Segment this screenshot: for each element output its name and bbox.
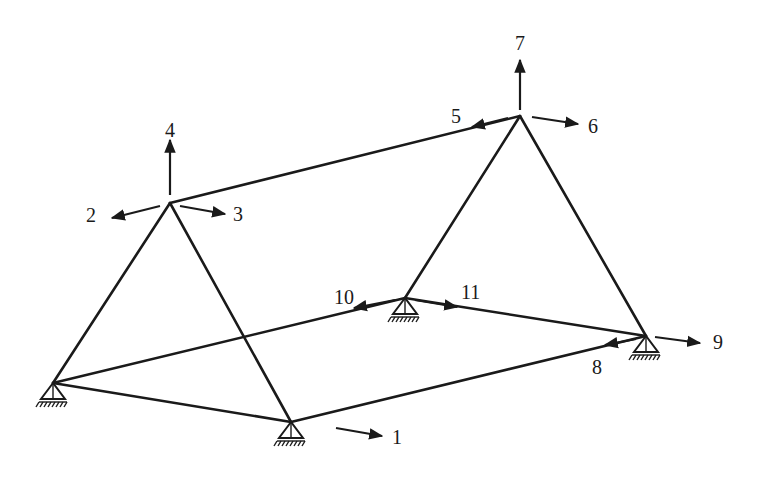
dof-label-6: 6 bbox=[588, 115, 598, 137]
dof-label-7: 7 bbox=[515, 32, 525, 54]
member-left-front-leg bbox=[53, 203, 170, 383]
member-right-back-leg bbox=[520, 116, 646, 336]
support-icon bbox=[36, 383, 67, 407]
dof-label-5: 5 bbox=[451, 105, 461, 127]
dof-label-10: 10 bbox=[334, 286, 354, 308]
arrow-right-icon bbox=[532, 117, 578, 124]
supports bbox=[36, 298, 660, 446]
arrow-right-icon bbox=[180, 206, 225, 214]
dof-arrows bbox=[112, 60, 700, 436]
dof-label-8: 8 bbox=[592, 356, 602, 378]
member-left-back-leg bbox=[170, 203, 291, 422]
arrow-left-icon bbox=[112, 206, 160, 218]
dof-label-3: 3 bbox=[233, 203, 243, 225]
dof-label-2: 2 bbox=[86, 204, 96, 226]
arrow-left-icon bbox=[354, 300, 395, 308]
member-base-front bbox=[53, 383, 291, 422]
arrow-left-icon bbox=[472, 118, 508, 127]
dof-labels: 1 2 3 4 5 6 7 8 9 10 11 bbox=[86, 32, 723, 448]
frame-diagram: 1 2 3 4 5 6 7 8 9 10 11 bbox=[0, 0, 757, 487]
dof-label-9: 9 bbox=[713, 331, 723, 353]
member-right-front-leg bbox=[405, 116, 520, 298]
member-top-beam bbox=[170, 116, 520, 203]
arrow-right-icon bbox=[336, 428, 382, 436]
member-base-right bbox=[291, 336, 646, 422]
dof-label-4: 4 bbox=[165, 119, 175, 141]
frame-members bbox=[53, 116, 646, 422]
dof-label-11: 11 bbox=[461, 281, 480, 303]
dof-label-1: 1 bbox=[392, 426, 402, 448]
arrow-right-icon bbox=[655, 337, 700, 343]
arrow-left-icon bbox=[605, 339, 636, 345]
support-icon bbox=[274, 422, 305, 446]
arrow-right-icon bbox=[415, 300, 457, 307]
